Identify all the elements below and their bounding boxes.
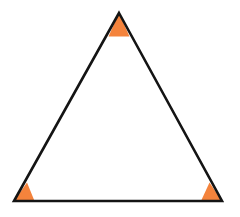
diagram-canvas	[0, 0, 240, 217]
triangle-diagram-svg	[0, 0, 240, 217]
